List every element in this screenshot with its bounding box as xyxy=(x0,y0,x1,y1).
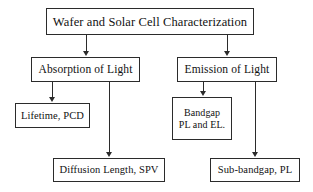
node-sub-bandgap-pl[interactable]: Sub-bandgap, PL xyxy=(210,158,300,182)
node-subbandgap-label: Sub-bandgap, PL xyxy=(218,164,292,176)
node-absorption-of-light[interactable]: Absorption of Light xyxy=(31,57,140,82)
node-lifetime-pcd[interactable]: Lifetime, PCD xyxy=(15,103,90,128)
node-bandgap-label-line1: Bandgap xyxy=(184,107,220,118)
node-emission-of-light[interactable]: Emission of Light xyxy=(177,57,277,82)
node-emission-label: Emission of Light xyxy=(185,63,270,76)
node-bandgap-label-line2: PL and EL. xyxy=(179,119,225,130)
node-bandgap-pl-and-el[interactable]: Bandgap PL and EL. xyxy=(172,97,232,140)
node-root-label: Wafer and Solar Cell Characterization xyxy=(53,15,247,29)
flowchart-canvas: Wafer and Solar Cell Characterization Ab… xyxy=(0,0,313,192)
node-lifetime-label: Lifetime, PCD xyxy=(21,110,84,122)
node-diffusion-label: Diffusion Length, SPV xyxy=(59,164,158,176)
node-absorption-label: Absorption of Light xyxy=(39,63,133,76)
node-root[interactable]: Wafer and Solar Cell Characterization xyxy=(46,8,254,35)
node-diffusion-length-spv[interactable]: Diffusion Length, SPV xyxy=(53,158,165,182)
